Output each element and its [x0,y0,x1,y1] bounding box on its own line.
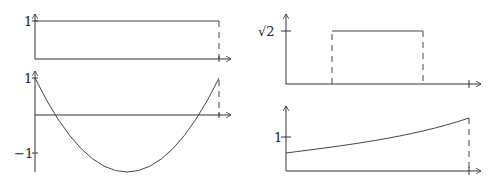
y-label-1: 1 [274,130,282,145]
parabola-curve [35,78,219,172]
panel-top-left: 1 [24,14,231,62]
diagram-canvas: 1 1 −1 √2 1 [0,0,492,186]
y-label-sqrt2: √2 [258,24,275,39]
y-label-minus-1: −1 [14,146,33,161]
increasing-curve [286,118,469,153]
panel-bottom-left: 1 −1 [14,71,231,172]
y-label-1: 1 [24,71,32,86]
panel-bottom-right: 1 [274,106,481,175]
panel-top-right: √2 [258,14,481,88]
y-label-1: 1 [24,14,32,29]
